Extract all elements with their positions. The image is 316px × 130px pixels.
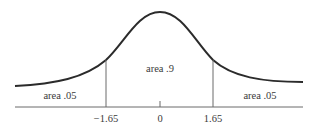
- left-tail-area-label: area .05: [43, 90, 76, 101]
- right-tail-area-label: area .05: [243, 90, 276, 101]
- tick-label-1-65: 1.65: [204, 113, 222, 124]
- tick-label-neg-1-65: −1.65: [94, 113, 118, 124]
- tick-label-0: 0: [157, 113, 162, 124]
- center-area-label: area .9: [146, 63, 174, 74]
- normal-distribution-diagram: area .05 area .9 area .05 −1.65 0 1.65: [0, 0, 316, 130]
- bell-curve: [15, 12, 303, 86]
